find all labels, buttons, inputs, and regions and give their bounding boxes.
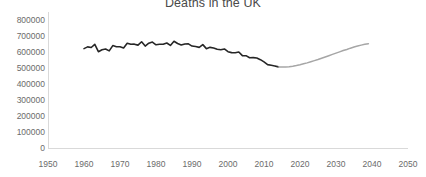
- chart-container: Deaths in the UK 01000002000003000004000…: [0, 0, 426, 177]
- series-line-historical: [84, 41, 278, 67]
- plot-area: [0, 0, 426, 177]
- series-line-projection: [278, 44, 368, 67]
